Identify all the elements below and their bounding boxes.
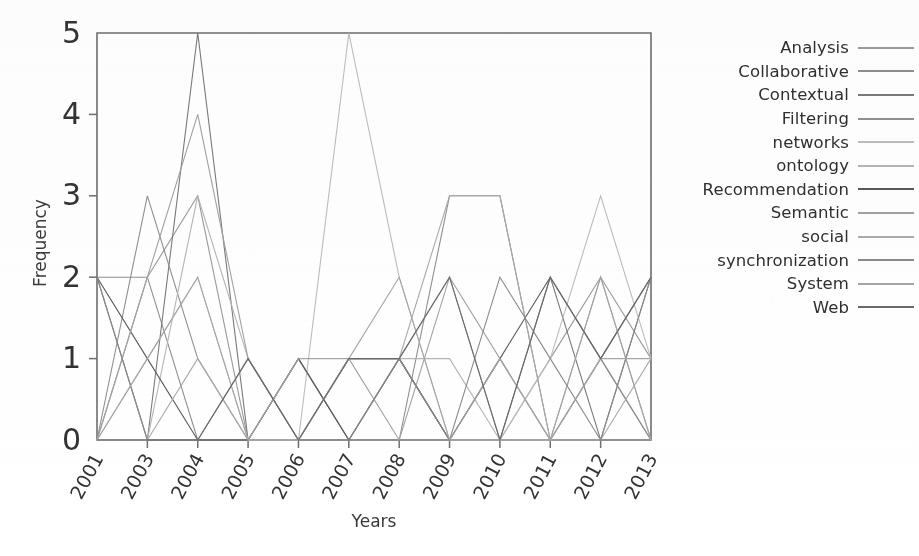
legend-color-swatch [858,259,914,261]
x-tick-labels: 2001200320042005200620072008200920102011… [65,450,661,503]
legend-color-swatch [858,165,914,167]
legend-item-label: Web [813,298,858,317]
legend-item-label: Semantic [771,203,858,222]
series-line [97,33,651,440]
legend-color-swatch [858,283,914,285]
legend-color-swatch [858,118,914,120]
legend-color-swatch [858,47,914,49]
y-tick-label: 5 [62,15,81,50]
legend-item-label: System [787,274,858,293]
chart-legend: AnalysisCollaborativeContextualFiltering… [690,36,914,319]
legend-item-label: social [801,227,858,246]
legend-item[interactable]: synchronization [690,248,914,272]
line-chart-svg: Frequency 012345 20012003200420052006200… [0,0,700,556]
chart-figure: Frequency 012345 20012003200420052006200… [0,0,919,556]
y-tick-label: 3 [62,177,81,212]
legend-item[interactable]: Collaborative [690,60,914,84]
x-tick-label: 2006 [267,450,309,503]
legend-item-label: Filtering [782,109,858,128]
x-tick-label: 2010 [468,450,510,503]
y-tick-labels: 012345 [62,15,81,457]
y-axis-title: Frequency [30,199,50,287]
series-line [97,33,651,440]
y-tick-label: 0 [62,422,81,457]
y-tick-marks [89,114,97,358]
x-tick-label: 2009 [418,450,460,503]
legend-item[interactable]: Contextual [690,83,914,107]
x-tick-label: 2003 [116,450,158,503]
x-tick-marks [147,440,600,448]
legend-color-swatch [858,141,914,143]
legend-item-label: Recommendation [703,180,858,199]
legend-item[interactable]: Recommendation [690,178,914,202]
x-tick-label: 2011 [519,450,561,503]
legend-item[interactable]: Semantic [690,201,914,225]
legend-item-label: networks [773,133,858,152]
legend-item-label: Contextual [758,85,858,104]
y-tick-label: 4 [62,96,81,131]
x-axis-title: Years [351,511,397,531]
plot-area: Frequency 012345 20012003200420052006200… [0,0,700,556]
series-lines [97,33,651,440]
legend-item-label: synchronization [717,251,858,270]
x-tick-label: 2004 [166,450,208,503]
legend-color-swatch [858,70,914,72]
legend-color-swatch [858,212,914,214]
series-line [97,114,651,440]
legend-item-label: Analysis [780,38,858,57]
legend-color-swatch [858,94,914,96]
y-tick-label: 2 [62,259,81,294]
legend-color-swatch [858,306,914,308]
legend-color-swatch [858,236,914,238]
legend-item[interactable]: ontology [690,154,914,178]
legend-color-swatch [858,188,914,190]
axis-frame [97,33,651,440]
x-tick-label: 2001 [65,450,107,503]
legend-item[interactable]: System [690,272,914,296]
legend-item[interactable]: Filtering [690,107,914,131]
legend-item-label: Collaborative [738,62,858,81]
x-tick-label: 2013 [619,450,661,503]
legend-item-label: ontology [776,156,858,175]
x-tick-label: 2012 [569,450,611,503]
legend-item[interactable]: Analysis [690,36,914,60]
legend-item[interactable]: Web [690,296,914,320]
x-tick-label: 2008 [368,450,410,503]
x-tick-label: 2005 [216,450,258,503]
legend-item[interactable]: social [690,225,914,249]
legend-item[interactable]: networks [690,130,914,154]
x-tick-label: 2007 [317,450,359,503]
y-tick-label: 1 [62,340,81,375]
